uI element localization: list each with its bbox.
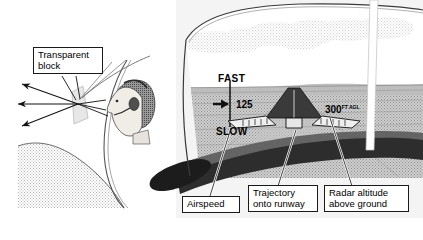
hud-fast-label: FAST [218,73,245,84]
hud-radar-altitude: 300FT AGL [325,104,360,115]
left-panel [18,56,155,208]
hud-radar-altitude-value: 300 [325,104,342,115]
hud-airspeed-value: 125 [236,99,253,110]
hud-slow-label: SLOW [216,126,248,137]
pilot-head [107,80,155,144]
callout-airspeed: Airspeed [182,196,240,213]
canopy-glass [18,60,131,208]
callout-radar-altitude-above-ground: Radar altitude above ground [324,185,409,212]
callout-transparent-block: Transparent block [33,47,103,74]
hud-radar-altitude-units: FT AGL [342,104,360,110]
callout-trajectory-onto-runway: Trajectory onto runway [248,185,318,212]
light-rays [18,84,78,126]
